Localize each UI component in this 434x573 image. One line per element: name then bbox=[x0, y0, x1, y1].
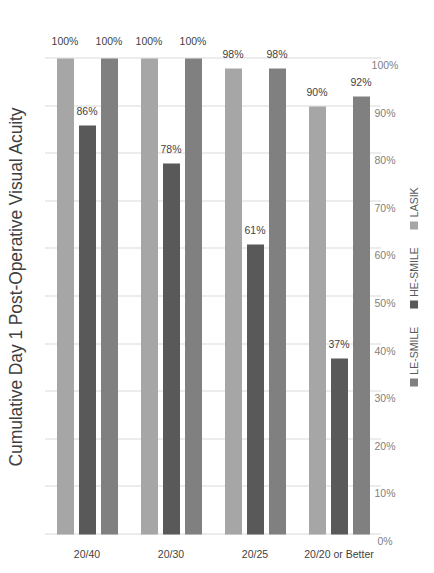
chart-legend: LE-SMILEHE-SMILELASIK bbox=[408, 0, 420, 573]
bar[interactable] bbox=[269, 68, 286, 534]
legend-label: LASIK bbox=[408, 187, 420, 217]
category-axis-labels: 20/4020/3020/2520/20 or Better bbox=[45, 534, 381, 573]
bar-row: 98% bbox=[225, 58, 242, 534]
category-label-text: 20/30 bbox=[158, 548, 184, 560]
bar[interactable] bbox=[141, 58, 158, 534]
bar-row: 90% bbox=[309, 58, 326, 534]
tick-label: 100% bbox=[372, 58, 399, 70]
bar[interactable] bbox=[185, 58, 202, 534]
bar-value-label: 37% bbox=[328, 337, 349, 349]
category-label: 20/40 bbox=[45, 534, 129, 573]
tick-label: 30% bbox=[374, 391, 395, 403]
category-label: 20/30 bbox=[129, 534, 213, 573]
tick-label: 70% bbox=[374, 201, 395, 213]
chart-title: Cumulative Day 1 Post-Operative Visual A… bbox=[6, 0, 27, 573]
bar-row: 98% bbox=[269, 58, 286, 534]
bar-group: 100%86%100% bbox=[45, 58, 129, 534]
legend-item[interactable]: LE-SMILE bbox=[408, 326, 420, 386]
category-label-text: 20/40 bbox=[74, 548, 100, 560]
bar-value-label: 100% bbox=[52, 35, 79, 47]
plot-area: 100%86%100%100%78%100%98%61%98%90%37%92% bbox=[45, 58, 381, 534]
tick-label: 50% bbox=[374, 296, 395, 308]
category-label: 20/25 bbox=[213, 534, 297, 573]
bar[interactable] bbox=[79, 125, 96, 534]
tick-label: 10% bbox=[374, 486, 395, 498]
bar-value-label: 100% bbox=[136, 35, 163, 47]
legend-swatch-icon bbox=[410, 378, 418, 386]
bar-group: 98%61%98% bbox=[213, 58, 297, 534]
bar-row: 100% bbox=[57, 58, 74, 534]
legend-label: HE-SMILE bbox=[408, 247, 420, 297]
bar-row: 37% bbox=[331, 58, 348, 534]
bar[interactable] bbox=[331, 358, 348, 534]
bar-row: 61% bbox=[247, 58, 264, 534]
bar-group: 90%37%92% bbox=[297, 58, 381, 534]
legend-swatch-icon bbox=[410, 221, 418, 229]
bar-value-label: 92% bbox=[350, 76, 371, 88]
bar-row: 100% bbox=[141, 58, 158, 534]
tick-label: 60% bbox=[374, 248, 395, 260]
bar-row: 100% bbox=[185, 58, 202, 534]
legend-item[interactable]: HE-SMILE bbox=[408, 247, 420, 309]
bar[interactable] bbox=[225, 68, 242, 534]
legend-item[interactable]: LASIK bbox=[408, 187, 420, 229]
bar-value-label: 100% bbox=[96, 35, 123, 47]
chart-rotator: Cumulative Day 1 Post-Operative Visual A… bbox=[0, 0, 434, 573]
tick-label: 40% bbox=[374, 344, 395, 356]
bar-value-label: 98% bbox=[222, 47, 243, 59]
tick-label: 80% bbox=[374, 153, 395, 165]
tick-label: 90% bbox=[374, 106, 395, 118]
tick-label: 20% bbox=[374, 439, 395, 451]
bar[interactable] bbox=[101, 58, 118, 534]
bar-chart-figure: Cumulative Day 1 Post-Operative Visual A… bbox=[0, 0, 434, 573]
bar[interactable] bbox=[57, 58, 74, 534]
bar-value-label: 61% bbox=[244, 223, 265, 235]
bar-value-label: 86% bbox=[76, 104, 97, 116]
bar-row: 86% bbox=[79, 58, 96, 534]
bar[interactable] bbox=[163, 163, 180, 534]
bar-groups: 100%86%100%100%78%100%98%61%98%90%37%92% bbox=[45, 58, 381, 534]
tick-label: 0% bbox=[377, 534, 392, 546]
category-label-text: 20/25 bbox=[242, 548, 268, 560]
bar-group: 100%78%100% bbox=[129, 58, 213, 534]
bar-value-label: 98% bbox=[266, 47, 287, 59]
bar-row: 100% bbox=[101, 58, 118, 534]
bar[interactable] bbox=[309, 106, 326, 534]
bar[interactable] bbox=[247, 244, 264, 534]
bar-row: 92% bbox=[353, 58, 370, 534]
bar[interactable] bbox=[353, 96, 370, 534]
bar-row: 78% bbox=[163, 58, 180, 534]
bar-value-label: 90% bbox=[306, 85, 327, 97]
category-label-text: 20/20 or Better bbox=[304, 548, 373, 560]
legend-swatch-icon bbox=[410, 300, 418, 308]
bar-value-label: 100% bbox=[180, 35, 207, 47]
bar-value-label: 78% bbox=[160, 142, 181, 154]
legend-label: LE-SMILE bbox=[408, 326, 420, 374]
category-label: 20/20 or Better bbox=[297, 534, 381, 573]
